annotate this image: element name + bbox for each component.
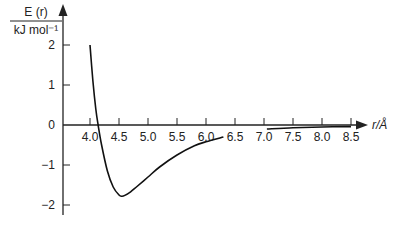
x-tick-label: 7.0 (256, 130, 273, 144)
x-axis-arrow-icon (356, 121, 368, 130)
potential-energy-chart: 4.04.55.05.56.06.57.07.58.08.5210−1−2 E … (0, 0, 409, 229)
x-tick-label: 4.0 (82, 130, 99, 144)
energy-curve-segment (90, 45, 223, 196)
y-tick-label: 2 (48, 38, 55, 52)
x-tick-label: 6.5 (227, 130, 244, 144)
x-tick-label: 7.5 (285, 130, 302, 144)
x-axis-title: r/Å (372, 117, 387, 132)
y-axis-title-top: E (r) (24, 5, 47, 19)
x-tick-label: 4.5 (111, 130, 128, 144)
energy-curve (90, 45, 351, 196)
x-tick-label: 8.5 (343, 130, 360, 144)
y-tick-label: −1 (41, 158, 55, 172)
y-tick-label: 1 (48, 78, 55, 92)
x-tick-label: 5.0 (140, 130, 157, 144)
axes (59, 4, 369, 215)
y-axis-title-bottom: kJ mol⁻¹ (14, 23, 59, 37)
energy-curve-segment (267, 127, 351, 129)
x-tick-label: 8.0 (314, 130, 331, 144)
y-tick-label: 0 (48, 118, 55, 132)
y-tick-label: −2 (41, 198, 55, 212)
y-axis-arrow-icon (59, 4, 68, 16)
axis-labels: E (r) kJ mol⁻¹ r/Å (10, 5, 387, 132)
x-tick-label: 5.5 (169, 130, 186, 144)
